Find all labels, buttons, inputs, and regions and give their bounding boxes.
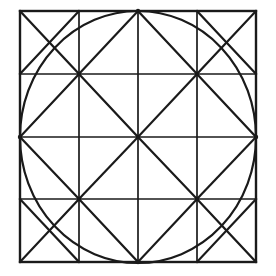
diag-center-down-right <box>138 137 197 199</box>
node-center <box>136 135 140 139</box>
geometry-drawing <box>0 0 276 276</box>
node-top-mid <box>136 9 140 13</box>
diag-center-up-left <box>79 74 138 137</box>
diag-center-down-left <box>79 137 138 199</box>
diag-leftmid-to-top <box>20 74 79 137</box>
node-inner-tl <box>77 72 81 76</box>
diag-rightmid-to-bottom <box>197 137 256 199</box>
diag-topmid-to-left <box>79 11 138 74</box>
diag-leftmid-to-bottom <box>20 137 79 199</box>
diag-rightmid-to-top <box>197 74 256 137</box>
node-left-mid <box>18 135 22 139</box>
node-right-mid <box>254 135 258 139</box>
node-inner-tr <box>195 72 199 76</box>
node-bottom-mid <box>136 260 140 264</box>
diag-botmid-to-left <box>79 199 138 262</box>
node-inner-br <box>195 197 199 201</box>
diag-botmid-to-right <box>138 199 197 262</box>
diag-center-up-right <box>138 74 197 137</box>
diag-topmid-to-right <box>138 11 197 74</box>
geometric-figure-canvas <box>0 0 276 276</box>
node-inner-bl <box>77 197 81 201</box>
